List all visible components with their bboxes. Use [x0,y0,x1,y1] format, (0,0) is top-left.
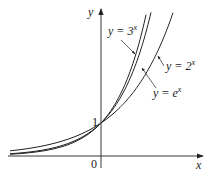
curve-2x [10,13,173,151]
label-2x: y = 2x [166,59,195,72]
y-axis-label: y [88,6,93,18]
label-ex: y = ex [153,86,181,99]
exponential-functions-figure: y x 0 1 y = 3x y = ex y = 2x [0,0,209,181]
intercept-label: 1 [92,116,98,128]
x-axis-label: x [196,159,201,171]
origin-label: 0 [91,158,97,170]
leader-ex [142,68,156,88]
leader-2x [158,56,164,66]
label-3x: y = 3x [108,24,137,37]
leader-3x [121,40,135,54]
